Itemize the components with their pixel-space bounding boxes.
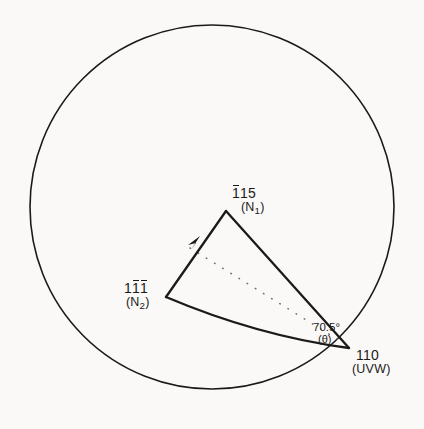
normal-close: )	[260, 200, 264, 214]
pole-label-n1-indices: 115	[232, 186, 256, 200]
miller-index-digit: 5	[248, 185, 256, 201]
miller-index-digit: 0	[371, 347, 379, 363]
angle-symbol-label: (θ)	[318, 334, 331, 345]
angle-value: 70.5	[313, 321, 335, 333]
angle-value-label: 70.5°	[313, 322, 340, 334]
normal-open: (N	[241, 200, 255, 214]
pole-label-n2-normal: (N2)	[126, 296, 150, 310]
edge-n2-n1	[166, 211, 226, 297]
normal-close: )	[145, 295, 149, 309]
miller-index-digit: 1	[124, 280, 132, 296]
miller-index-digit-overbar: 1	[232, 186, 240, 200]
miller-index-digit-overbar: 1	[140, 281, 148, 295]
miller-index-digit: 1	[356, 347, 363, 363]
degree-symbol-icon: °	[335, 321, 340, 333]
direction-label-uvw-indices: 110	[356, 348, 379, 362]
normal-open: (N	[126, 295, 140, 309]
direction-label-uvw-name: (UVW)	[352, 363, 391, 376]
pole-label-n2-indices: 111	[124, 281, 148, 295]
miller-index-digit: 1	[240, 185, 248, 201]
miller-index-digit-overbar: 1	[132, 281, 140, 295]
diagram-canvas: 115 (N1) 111 (N2) 110 (UVW) 70.5° (θ)	[0, 0, 424, 429]
miller-index-digit: 1	[363, 347, 371, 363]
pole-label-n1-normal: (N1)	[241, 201, 265, 215]
primitive-circle	[30, 25, 394, 389]
paren-close: )	[328, 333, 332, 345]
